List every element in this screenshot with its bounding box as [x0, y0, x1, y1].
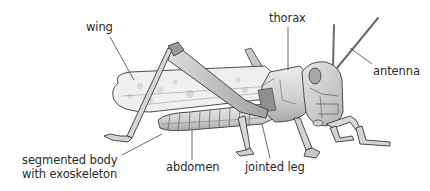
eye-shape	[309, 68, 321, 84]
head-shape	[302, 62, 343, 126]
label-antenna: antenna	[373, 64, 420, 78]
front-legs	[294, 116, 390, 158]
label-segmented-body: segmented body with exoskeleton	[22, 153, 118, 181]
antenna-left	[333, 25, 334, 67]
grasshopper-diagram: wing thorax antenna segmented body with …	[0, 0, 430, 191]
jointed-leg-leader-line	[262, 124, 270, 158]
antenna-leader-line	[350, 48, 372, 64]
antennae	[333, 18, 378, 68]
label-jointed-leg: jointed leg	[245, 160, 305, 174]
label-wing: wing	[86, 20, 113, 34]
label-abdomen: abdomen	[166, 160, 220, 174]
label-thorax: thorax	[269, 11, 306, 25]
label-segmented-body-line1: segmented body	[22, 153, 118, 167]
antenna-right	[337, 18, 378, 68]
label-segmented-body-line2: with exoskeleton	[22, 167, 118, 181]
